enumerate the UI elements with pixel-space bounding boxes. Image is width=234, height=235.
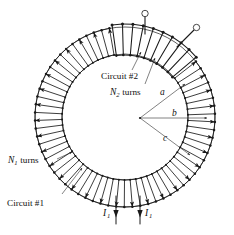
- circuit1-label: Circuit #1: [7, 198, 44, 208]
- n1-turns-leader: [57, 152, 72, 159]
- radius-origin-dot: [139, 117, 141, 119]
- n1-turns-label: N 1 turns: [7, 155, 39, 166]
- n2-turns-word: turns: [120, 87, 141, 97]
- terminal-right-lead: [177, 30, 194, 47]
- current-lead-left-arrow: [113, 210, 118, 218]
- n2-turns-label: N 2 turns: [109, 87, 141, 98]
- current-right-label: I 1: [144, 208, 152, 219]
- terminal-right-circle: [193, 24, 199, 30]
- toroid-diagram-svg: Circuit #2 N 2 turns N 1 turns Circuit #…: [0, 0, 234, 235]
- current-right-subscript: 1: [149, 212, 152, 219]
- toroid-figure: Circuit #2 N 2 turns N 1 turns Circuit #…: [0, 0, 234, 235]
- n1-turns-word: turns: [18, 155, 39, 165]
- n2-turns-leader: [145, 58, 155, 84]
- current-left-subscript: 1: [107, 212, 110, 219]
- radius-a-label: a: [160, 87, 165, 97]
- circuit2-terminals: [142, 10, 200, 47]
- circuit1-current-leads: [113, 196, 142, 224]
- n1-turns-subscript: 1: [14, 159, 17, 166]
- current-left-label: I 1: [102, 208, 110, 219]
- terminal-left-circle: [142, 10, 148, 16]
- current-lead-right-arrow: [137, 210, 142, 218]
- radius-b-label: b: [172, 108, 177, 118]
- circuit2-label: Circuit #2: [101, 71, 138, 81]
